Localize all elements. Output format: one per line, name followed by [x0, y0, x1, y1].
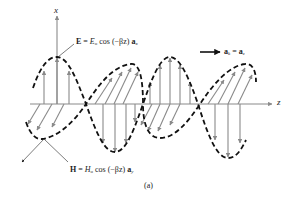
figure-caption: (a): [144, 182, 153, 190]
e-eq: =: [81, 37, 90, 46]
e-wave-envelope: [33, 57, 246, 158]
h-field-equation: H = Ho cos (−βz) ay: [70, 166, 133, 174]
e-unit-sub: x: [135, 41, 137, 46]
h-func: cos (−βz): [93, 165, 127, 174]
h-eq: =: [76, 165, 85, 174]
h-leader-line-2: [44, 139, 68, 162]
e-field-equation: E = Eo cos (−βz) ax: [76, 38, 138, 46]
h-unit-sub: y: [131, 169, 133, 174]
e-func: cos (−βz): [97, 37, 131, 46]
x-axis-label: x: [54, 6, 58, 15]
e-leader-line: [58, 44, 74, 57]
propagation-label: ak = az: [224, 48, 245, 56]
ak-eq: =: [230, 47, 239, 56]
h-leader-line-1: [22, 139, 44, 162]
h-field-arrows: [28, 68, 252, 131]
wave-diagram: [0, 0, 294, 197]
az-sub: z: [243, 51, 245, 56]
z-axis-label: z: [277, 98, 281, 107]
h-wave-envelope: [26, 64, 256, 139]
